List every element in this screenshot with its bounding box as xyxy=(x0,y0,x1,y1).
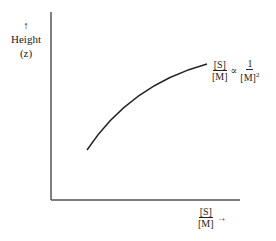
proportional-symbol: ∝ xyxy=(231,65,238,76)
x-axis-label: [S] [M] → xyxy=(198,206,227,229)
height-curve xyxy=(87,64,207,150)
y-axis-title: Height xyxy=(8,32,44,46)
y-axis-label: ↑ Height (z) xyxy=(8,18,44,60)
inverse-square-fraction: 1 [M]2 xyxy=(240,58,259,83)
y-axis-variable: (z) xyxy=(8,46,44,60)
ratio-fraction: [S] [M] xyxy=(212,59,228,82)
up-arrow-icon: ↑ xyxy=(8,18,44,32)
right-arrow-icon: → xyxy=(217,212,227,223)
proportionality-annotation: [S] [M] ∝ 1 [M]2 xyxy=(212,58,259,83)
x-ratio-fraction: [S] [M] xyxy=(198,206,214,229)
